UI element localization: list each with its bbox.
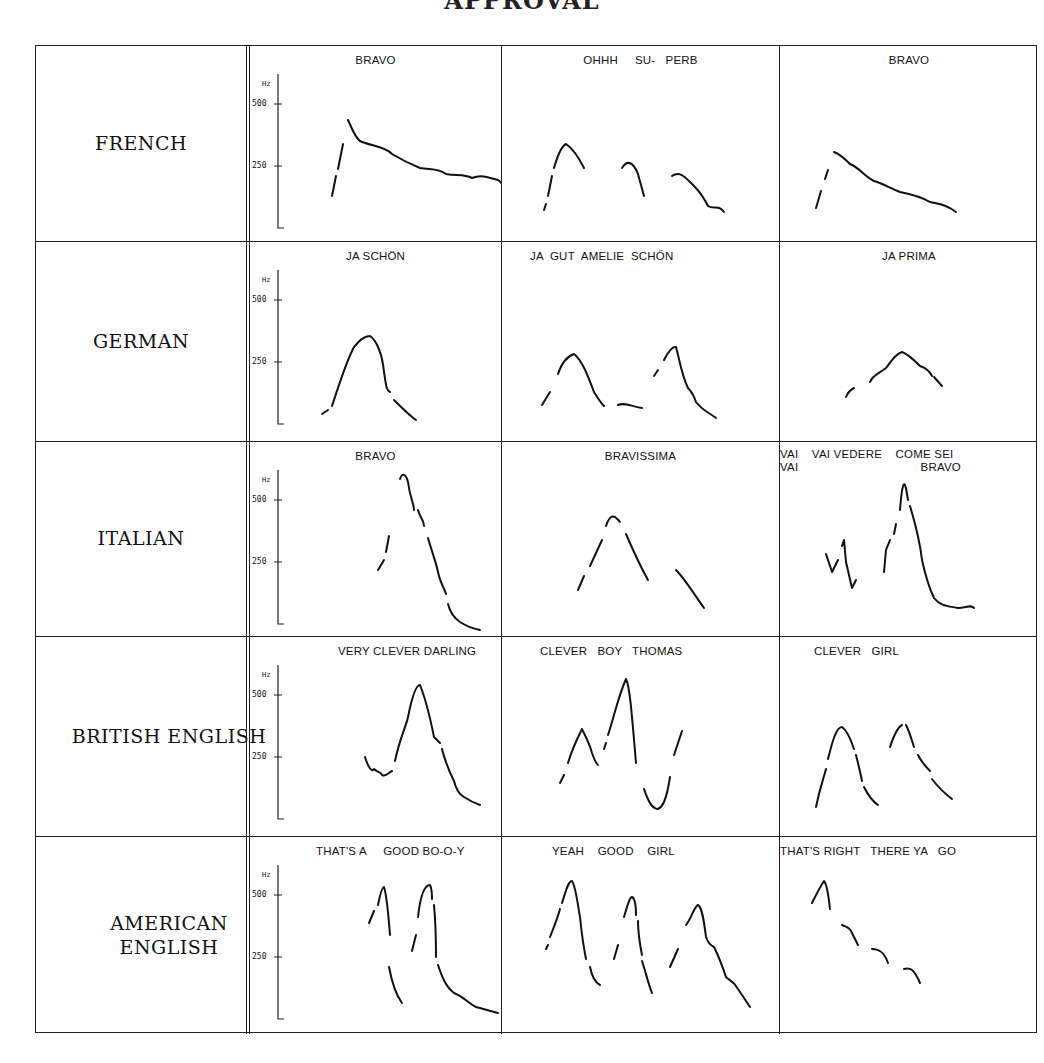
pitch-contour — [780, 637, 1038, 836]
y-axis-unit: Hz — [262, 871, 270, 879]
y-tick-250: 250 — [252, 161, 266, 170]
y-tick-250: 250 — [252, 357, 266, 366]
contour-cell: JA SCHÖNHz500250 — [250, 242, 501, 441]
y-axis — [274, 74, 284, 228]
pitch-contour — [780, 837, 1038, 1034]
y-axis-unit: Hz — [262, 671, 270, 679]
y-axis-unit: Hz — [262, 476, 270, 484]
y-tick-500: 500 — [252, 99, 266, 108]
contour-cell: BRAVOHz500250 — [250, 46, 501, 241]
pitch-contour — [502, 46, 779, 241]
pitch-contour — [502, 242, 779, 441]
table-row: ITALIANBRAVOHz500250BRAVISSIMAVAI VAI VE… — [36, 441, 1036, 636]
contour-cell: CLEVER GIRL — [779, 637, 1038, 836]
table-row: GERMANJA SCHÖNHz500250JA GUT AMELIE SCHŐ… — [36, 241, 1036, 441]
pitch-contour — [780, 46, 1038, 241]
y-axis — [274, 865, 284, 1019]
pitch-contour — [780, 442, 1038, 636]
language-label: FRENCH — [36, 46, 246, 241]
contour-cell: BRAVO — [779, 46, 1038, 241]
y-axis — [274, 665, 284, 819]
pitch-contour — [502, 837, 779, 1034]
y-axis-unit: Hz — [262, 276, 270, 284]
y-tick-500: 500 — [252, 295, 266, 304]
y-tick-250: 250 — [252, 752, 266, 761]
contour-cell: JA PRIMA — [779, 242, 1038, 441]
y-axis — [274, 270, 284, 424]
contour-cell: YEAH GOOD GIRL — [501, 837, 779, 1034]
contour-cell: VERY CLEVER DARLINGHz500250 — [250, 637, 501, 836]
contour-cell: VAI VAI VEDERE COME SEI VAI BRAVO — [779, 442, 1038, 636]
pitch-contour — [250, 442, 501, 636]
y-tick-250: 250 — [252, 952, 266, 961]
pitch-contour — [780, 242, 1038, 441]
figure-title: APPROVAL — [0, 0, 1044, 15]
pitch-contour — [250, 46, 501, 241]
pitch-contour — [502, 442, 779, 636]
language-label: GERMAN — [36, 242, 246, 441]
contour-cell: THAT'S RIGHT THERE YA GO — [779, 837, 1038, 1034]
contour-cell: THAT'S A GOOD BO-O-YHz500250 — [250, 837, 501, 1034]
y-axis-unit: Hz — [262, 80, 270, 88]
pitch-contour — [250, 242, 501, 441]
contour-cell: BRAVISSIMA — [501, 442, 779, 636]
pitch-contour — [502, 637, 779, 836]
pitch-contour — [250, 637, 501, 836]
y-axis — [274, 470, 284, 624]
language-label: ITALIAN — [36, 442, 246, 636]
contour-cell: OHHH SU- PERB — [501, 46, 779, 241]
y-tick-250: 250 — [252, 557, 266, 566]
table-row: FRENCHBRAVOHz500250OHHH SU- PERBBRAVO — [36, 46, 1036, 241]
table-row: AMERICAN ENGLISHTHAT'S A GOOD BO-O-YHz50… — [36, 836, 1036, 1034]
y-tick-500: 500 — [252, 690, 266, 699]
pitch-contour — [250, 837, 501, 1034]
y-tick-500: 500 — [252, 495, 266, 504]
contour-cell: BRAVOHz500250 — [250, 442, 501, 636]
pitch-contour-table: FRENCHBRAVOHz500250OHHH SU- PERBBRAVOGER… — [35, 45, 1037, 1033]
contour-cell: JA GUT AMELIE SCHŐN — [501, 242, 779, 441]
contour-cell: CLEVER BOY THOMAS — [501, 637, 779, 836]
y-tick-500: 500 — [252, 890, 266, 899]
table-row: BRITISH ENGLISHVERY CLEVER DARLINGHz5002… — [36, 636, 1036, 836]
